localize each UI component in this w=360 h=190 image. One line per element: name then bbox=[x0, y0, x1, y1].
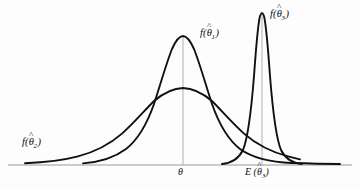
tick-e-subscript: 3 bbox=[262, 172, 266, 180]
label-f1-hat-mark: ^ bbox=[207, 22, 211, 31]
curve-theta-hat-2 bbox=[25, 88, 300, 163]
curve-label-f-theta-hat-3: f(^θ3) bbox=[270, 9, 289, 20]
curve-theta-hat-1 bbox=[83, 36, 340, 164]
label-f2-close-paren: ) bbox=[38, 136, 42, 147]
tick-e-symbol: E bbox=[245, 166, 251, 177]
label-f2-subscript: 2 bbox=[33, 142, 37, 150]
label-f2-hat-mark: ^ bbox=[29, 131, 33, 140]
label-f1-subscript: 1 bbox=[211, 33, 215, 41]
tick-e-hat-mark: ^ bbox=[257, 161, 261, 170]
tick-e-close-paren: ) bbox=[265, 166, 268, 177]
label-f1-close-paren: ) bbox=[216, 27, 220, 38]
plot-canvas bbox=[0, 0, 360, 190]
tick-theta-text: θ bbox=[178, 166, 183, 177]
estimator-distributions-figure: f(^θ1) f(^θ2) f(^θ3) θ E (^θ3) bbox=[0, 0, 360, 190]
label-f3-hat-mark: ^ bbox=[277, 3, 281, 12]
x-axis-tick-theta: θ bbox=[178, 167, 183, 177]
label-f3-close-paren: ) bbox=[286, 8, 290, 19]
curve-label-f-theta-hat-1: f(^θ1) bbox=[200, 28, 219, 39]
curve-label-f-theta-hat-2: f(^θ2) bbox=[22, 137, 41, 148]
x-axis-tick-expected-value: E (^θ3) bbox=[245, 167, 269, 177]
label-f3-subscript: 3 bbox=[281, 14, 285, 22]
